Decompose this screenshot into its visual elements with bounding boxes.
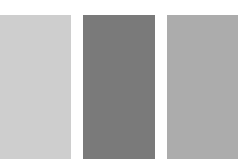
swatch-dark-gray [83,15,155,159]
swatch-light-gray [0,15,71,159]
swatch-medium-gray [167,15,238,159]
